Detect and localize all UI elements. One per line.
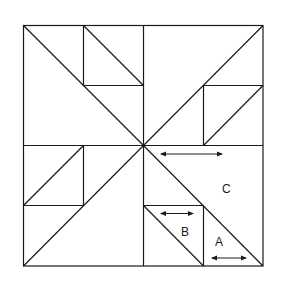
label-b: B	[181, 225, 189, 239]
label-a: A	[215, 235, 223, 249]
small-square-left	[24, 146, 84, 206]
small-square-top	[84, 26, 144, 86]
small-square-bottom	[144, 206, 204, 267]
label-c: C	[222, 182, 231, 196]
small-square-right	[204, 86, 264, 146]
quilt-block-diagram: C B A	[0, 0, 281, 286]
